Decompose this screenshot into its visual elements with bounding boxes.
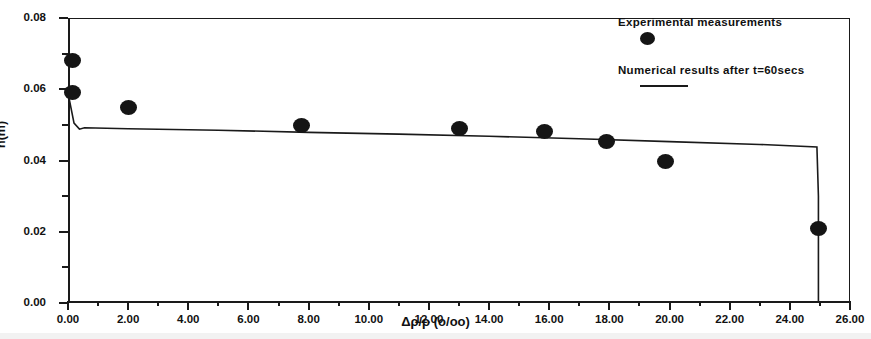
legend-spacer bbox=[618, 52, 848, 64]
y-tick-major: 0.04 bbox=[59, 160, 68, 162]
filled-circle-icon bbox=[640, 32, 655, 45]
data-point-marker bbox=[451, 121, 468, 136]
legend-item-experimental: Experimental measurements bbox=[618, 16, 848, 48]
line-segment-icon bbox=[640, 85, 688, 87]
figure-container: 0.000.020.040.060.08 0.002.004.006.008.0… bbox=[0, 0, 871, 339]
y-tick-label: 0.04 bbox=[24, 154, 46, 166]
y-axis-title: h(m) bbox=[0, 121, 8, 148]
y-tick-major: 0.02 bbox=[59, 231, 68, 233]
legend-label-experimental: Experimental measurements bbox=[618, 16, 848, 28]
legend-swatch-experimental bbox=[618, 28, 848, 48]
data-point-marker bbox=[657, 154, 674, 169]
x-axis-title: Δρ/ρ (o/oo) bbox=[0, 314, 871, 329]
chart-legend: Experimental measurements Numerical resu… bbox=[618, 16, 848, 100]
y-tick-major: 0.08 bbox=[59, 17, 68, 19]
y-tick-label: 0.08 bbox=[24, 11, 46, 23]
y-tick-label: 0.02 bbox=[24, 225, 46, 237]
data-point-marker bbox=[120, 100, 137, 115]
data-point-marker bbox=[293, 118, 310, 133]
y-tick-label: 0.06 bbox=[24, 82, 46, 94]
data-point-marker bbox=[810, 221, 827, 236]
legend-item-numerical: Numerical results after t=60secs bbox=[618, 64, 848, 96]
page-edge-artifact bbox=[0, 333, 871, 339]
y-tick-label: 0.00 bbox=[24, 296, 46, 308]
legend-label-numerical: Numerical results after t=60secs bbox=[618, 64, 848, 76]
legend-swatch-numerical bbox=[618, 76, 848, 96]
